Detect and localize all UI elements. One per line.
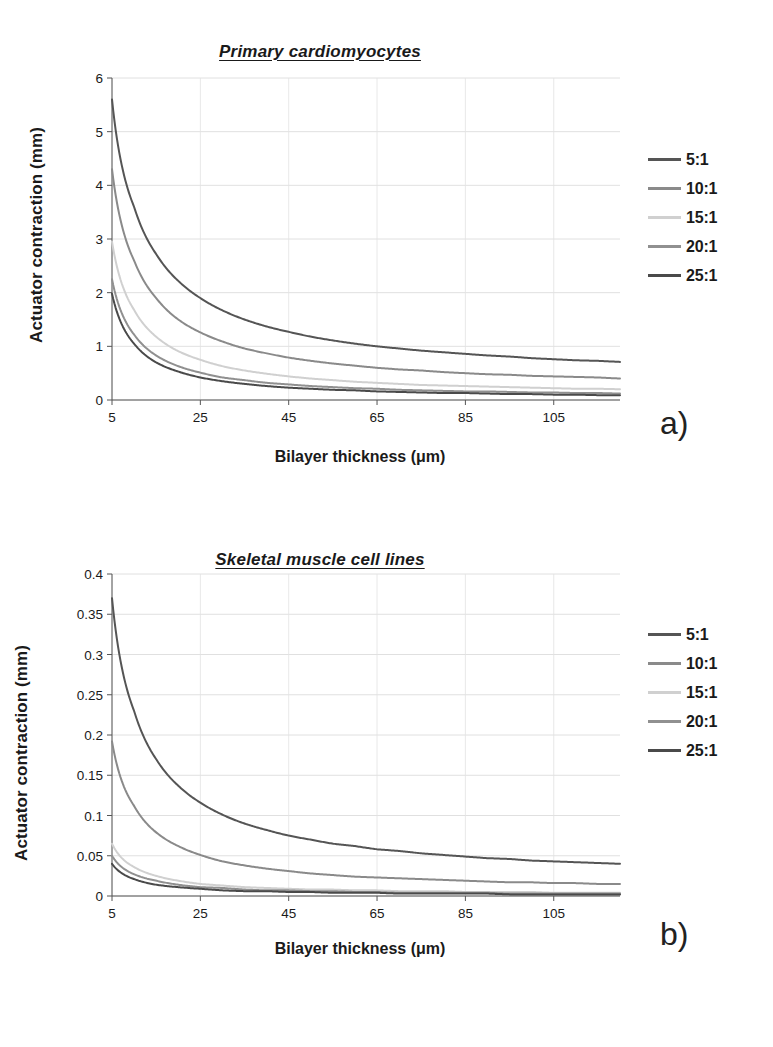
svg-text:65: 65 [370, 906, 385, 921]
legend-label: 5:1 [686, 626, 709, 644]
legend-line-icon [648, 749, 681, 752]
legend-item-10-1: 10:1 [648, 649, 717, 678]
legend-line-icon [648, 158, 681, 161]
svg-text:5: 5 [108, 410, 116, 425]
chart-panel-b: Skeletal muscle cell lines Actuator cont… [0, 528, 773, 1028]
legend-a: 5:110:115:120:125:1 [648, 145, 717, 290]
legend-label: 15:1 [686, 209, 717, 227]
legend-label: 25:1 [686, 742, 717, 760]
legend-line-icon [648, 245, 681, 248]
svg-text:1: 1 [95, 339, 103, 354]
legend-label: 15:1 [686, 684, 717, 702]
legend-line-icon [648, 633, 681, 636]
legend-label: 20:1 [686, 713, 717, 731]
legend-line-icon [648, 691, 681, 694]
legend-label: 25:1 [686, 267, 717, 285]
chart-panel-a: Primary cardiomyocytes Actuator contract… [0, 20, 773, 520]
svg-text:65: 65 [370, 410, 385, 425]
x-axis-label-b: Bilayer thickness (μm) [100, 940, 620, 958]
svg-text:0.3: 0.3 [84, 648, 103, 663]
panel-letter-b: b) [660, 916, 688, 953]
svg-text:25: 25 [193, 410, 208, 425]
svg-text:0: 0 [95, 393, 103, 408]
svg-text:0.25: 0.25 [77, 688, 103, 703]
chart-title-a: Primary cardiomyocytes [0, 42, 640, 62]
legend-b: 5:110:115:120:125:1 [648, 620, 717, 765]
x-axis-label-a: Bilayer thickness (μm) [100, 448, 620, 466]
legend-item-10-1: 10:1 [648, 174, 717, 203]
svg-text:105: 105 [542, 410, 565, 425]
svg-text:105: 105 [542, 906, 565, 921]
svg-text:45: 45 [281, 906, 296, 921]
legend-item-25-1: 25:1 [648, 261, 717, 290]
legend-label: 5:1 [686, 151, 709, 169]
legend-item-15-1: 15:1 [648, 678, 717, 707]
svg-text:4: 4 [95, 178, 103, 193]
legend-item-20-1: 20:1 [648, 707, 717, 736]
svg-text:85: 85 [458, 906, 473, 921]
figure-container: Primary cardiomyocytes Actuator contract… [0, 0, 773, 1047]
plot-area-b: 00.050.10.150.20.250.30.350.452545658510… [0, 566, 640, 956]
legend-line-icon [648, 662, 681, 665]
svg-text:0.2: 0.2 [84, 728, 103, 743]
svg-text:0.4: 0.4 [84, 567, 103, 582]
legend-label: 10:1 [686, 655, 717, 673]
svg-text:2: 2 [95, 286, 103, 301]
svg-text:85: 85 [458, 410, 473, 425]
legend-item-15-1: 15:1 [648, 203, 717, 232]
panel-letter-a: a) [660, 405, 688, 442]
legend-label: 20:1 [686, 238, 717, 256]
svg-text:0.15: 0.15 [77, 768, 103, 783]
svg-text:0: 0 [95, 889, 103, 904]
svg-text:3: 3 [95, 232, 103, 247]
legend-line-icon [648, 187, 681, 190]
svg-text:0.35: 0.35 [77, 607, 103, 622]
legend-item-5-1: 5:1 [648, 145, 717, 174]
svg-text:5: 5 [108, 906, 116, 921]
svg-text:45: 45 [281, 410, 296, 425]
svg-text:25: 25 [193, 906, 208, 921]
legend-label: 10:1 [686, 180, 717, 198]
plot-area-a: 0123456525456585105 [0, 70, 640, 460]
legend-line-icon [648, 216, 681, 219]
legend-line-icon [648, 720, 681, 723]
legend-item-25-1: 25:1 [648, 736, 717, 765]
svg-text:0.05: 0.05 [77, 849, 103, 864]
svg-text:0.1: 0.1 [84, 809, 103, 824]
svg-text:6: 6 [95, 71, 103, 86]
svg-text:5: 5 [95, 125, 103, 140]
legend-line-icon [648, 274, 681, 277]
legend-item-5-1: 5:1 [648, 620, 717, 649]
legend-item-20-1: 20:1 [648, 232, 717, 261]
